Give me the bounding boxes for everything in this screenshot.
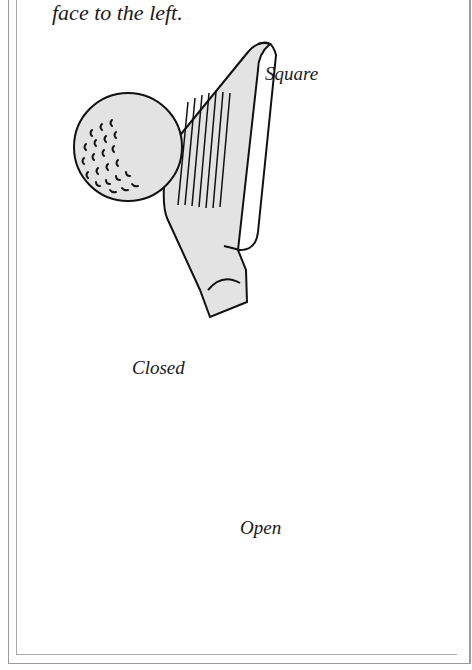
golf-illustration — [0, 0, 472, 670]
label-open: Open — [240, 517, 281, 539]
square-ball-icon — [74, 93, 182, 201]
label-square: Square — [265, 63, 318, 85]
square-club-icon — [164, 42, 276, 317]
label-closed: Closed — [132, 357, 185, 379]
